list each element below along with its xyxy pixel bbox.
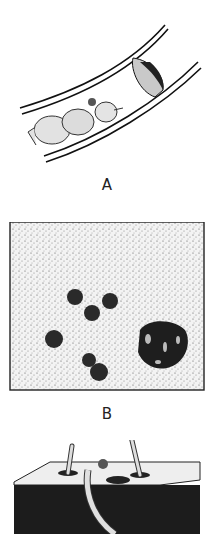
panel-b-label: B	[0, 405, 214, 423]
panel-a-illustration	[0, 0, 214, 180]
larva-body	[28, 98, 123, 145]
panel-a-label: A	[0, 176, 214, 194]
tube-larva-drawing	[0, 0, 214, 180]
panel-c-illustration	[0, 440, 214, 534]
block-tubes-drawing	[0, 440, 214, 534]
cup-shape	[132, 58, 163, 97]
panel-b-illustration	[0, 222, 214, 392]
cell-field-drawing	[0, 222, 214, 392]
